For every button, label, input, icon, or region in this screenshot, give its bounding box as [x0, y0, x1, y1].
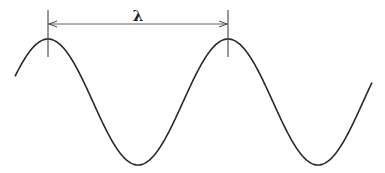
sine-wave [15, 39, 372, 165]
wavelength-label: λ [133, 7, 144, 25]
wavelength-diagram: λ [0, 0, 385, 173]
